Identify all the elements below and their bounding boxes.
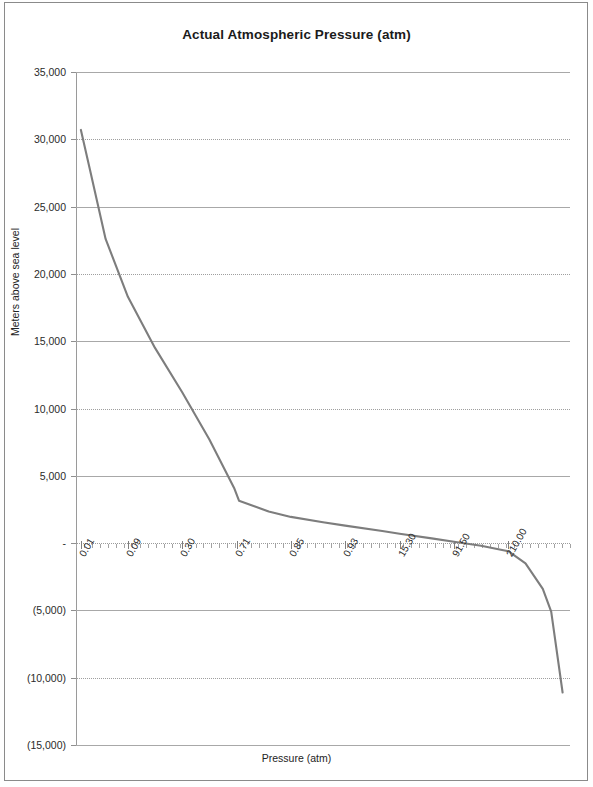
- gridline: [76, 745, 570, 746]
- y-axis-tick-label: 25,000: [0, 201, 66, 213]
- y-axis-tick-label: (10,000): [0, 672, 66, 684]
- y-axis-tick-label: (15,000): [0, 739, 66, 751]
- data-series-line: [76, 72, 570, 745]
- y-axis-tick-label: 15,000: [0, 335, 66, 347]
- scanned-chart-page: Actual Atmospheric Pressure (atm) 35,000…: [0, 0, 593, 787]
- x-axis-minor-tick: [570, 544, 571, 548]
- plot-area: [76, 72, 570, 745]
- x-axis-title: Pressure (atm): [0, 752, 593, 764]
- y-axis-title: Meters above sea level: [9, 228, 21, 336]
- chart-title: Actual Atmospheric Pressure (atm): [0, 27, 593, 42]
- y-axis-tick: [71, 745, 76, 746]
- y-axis-tick-label: 10,000: [0, 403, 66, 415]
- y-axis-tick-label: 5,000: [0, 470, 66, 482]
- y-axis-tick-label: 30,000: [0, 133, 66, 145]
- y-axis-tick-label: (5,000): [0, 604, 66, 616]
- y-axis-tick-label: -: [0, 537, 66, 549]
- y-axis-tick-label: 35,000: [0, 66, 66, 78]
